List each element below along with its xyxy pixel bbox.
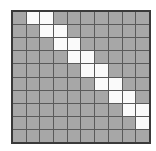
grid-cell [81, 38, 94, 50]
grid-cell-highlighted [123, 104, 136, 116]
grid-cell [109, 104, 122, 116]
grid-cell [81, 12, 94, 24]
grid-cell [40, 104, 53, 116]
grid-cell [27, 130, 40, 142]
grid-cell [40, 78, 53, 90]
grid-cell [109, 25, 122, 37]
grid-cell [123, 25, 136, 37]
grid-cell-highlighted [123, 91, 136, 103]
grid-cell [95, 91, 108, 103]
grid-cell [27, 51, 40, 63]
grid-cell [40, 38, 53, 50]
grid-cell [81, 104, 94, 116]
grid-cell [40, 91, 53, 103]
grid-cell [40, 64, 53, 76]
grid-cell [136, 12, 149, 24]
grid-cell [123, 64, 136, 76]
grid-cell [68, 64, 81, 76]
grid-cell [136, 78, 149, 90]
grid-cell [68, 12, 81, 24]
grid-cell [13, 64, 26, 76]
grid-cell [13, 51, 26, 63]
grid-cell [81, 130, 94, 142]
grid-cell-highlighted [136, 117, 149, 129]
grid-cell [109, 117, 122, 129]
grid-cell [95, 12, 108, 24]
grid-cell [95, 117, 108, 129]
grid-cell [13, 117, 26, 129]
grid-cell [109, 38, 122, 50]
grid-cell [54, 117, 67, 129]
grid-cell [54, 104, 67, 116]
grid-cell [123, 130, 136, 142]
grid-cell [109, 12, 122, 24]
grid-cell-highlighted [68, 38, 81, 50]
grid-cell [136, 25, 149, 37]
grid-cell [95, 25, 108, 37]
grid-cell [81, 78, 94, 90]
grid-cell [54, 51, 67, 63]
grid-cell [123, 12, 136, 24]
grid-cell [136, 130, 149, 142]
grid-cell [54, 78, 67, 90]
grid-cell [81, 117, 94, 129]
grid-cell [54, 64, 67, 76]
grid-cell-highlighted [109, 91, 122, 103]
grid-cell [68, 25, 81, 37]
grid-cell [136, 91, 149, 103]
grid-cell-highlighted [95, 78, 108, 90]
grid-cell-highlighted [27, 12, 40, 24]
grid-cell [68, 130, 81, 142]
grid-cell [27, 91, 40, 103]
grid-cell [27, 38, 40, 50]
grid-cell [40, 117, 53, 129]
grid-cell [27, 25, 40, 37]
grid-cell [95, 104, 108, 116]
grid-cell [13, 12, 26, 24]
grid-cell [109, 51, 122, 63]
grid-cell [123, 117, 136, 129]
grid-cell [81, 91, 94, 103]
grid-cell [95, 51, 108, 63]
grid-cell [81, 25, 94, 37]
grid-cell [27, 64, 40, 76]
grid-cell [123, 38, 136, 50]
grid-cell [54, 91, 67, 103]
grid-cell [109, 130, 122, 142]
grid-cell [13, 25, 26, 37]
grid-cell [27, 104, 40, 116]
grid-cell [123, 51, 136, 63]
grid-cell [95, 130, 108, 142]
grid-cell-highlighted [109, 78, 122, 90]
grid-cell [95, 38, 108, 50]
grid-cell [13, 104, 26, 116]
grid-cell-highlighted [81, 51, 94, 63]
grid-cell [13, 78, 26, 90]
grid-cell-highlighted [136, 104, 149, 116]
grid-cell [13, 38, 26, 50]
grid-cell [40, 51, 53, 63]
grid-cell [136, 51, 149, 63]
grid-cell [54, 12, 67, 24]
grid-cell-highlighted [95, 64, 108, 76]
grid-cell-highlighted [54, 25, 67, 37]
grid-cell [54, 130, 67, 142]
grid-cell [13, 91, 26, 103]
band-matrix-grid [11, 10, 151, 144]
grid-cell [136, 38, 149, 50]
grid-cell [13, 130, 26, 142]
grid-cell [109, 64, 122, 76]
grid-cell [27, 78, 40, 90]
grid-cell-highlighted [40, 25, 53, 37]
grid-cell [123, 78, 136, 90]
grid-cell-highlighted [54, 38, 67, 50]
grid-cell [136, 64, 149, 76]
grid-cell [68, 91, 81, 103]
grid-cell-highlighted [40, 12, 53, 24]
grid-cell [68, 104, 81, 116]
grid-cell [68, 78, 81, 90]
grid-cell [68, 117, 81, 129]
grid-cell-highlighted [68, 51, 81, 63]
grid-cell [40, 130, 53, 142]
grid-cell-highlighted [81, 64, 94, 76]
